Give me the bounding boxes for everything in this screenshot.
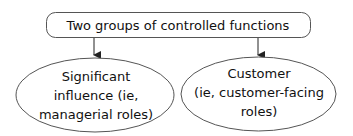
root-node: Two groups of controlled functions (47, 13, 311, 38)
child-left-line-1: Significant (62, 69, 131, 84)
controlled-functions-diagram: Two groups of controlled functions Signi… (0, 0, 353, 136)
child-node-customer: Customer (ie, customer-facing roles) (181, 57, 336, 131)
child-right-line-3: roles) (241, 104, 277, 119)
child-right-line-1: Customer (227, 66, 291, 81)
root-label: Two groups of controlled functions (66, 18, 290, 33)
child-node-significant-influence: Significant influence (ie, managerial ro… (16, 58, 174, 132)
child-left-line-2: influence (ie, (54, 88, 139, 103)
child-left-line-3: managerial roles) (39, 107, 153, 122)
child-right-line-2: (ie, customer-facing (194, 85, 324, 100)
